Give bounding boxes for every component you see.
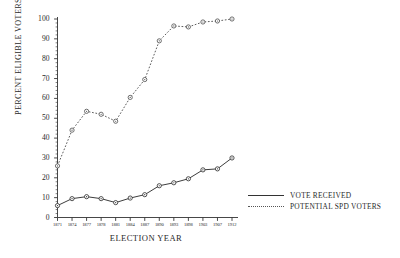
y-axis-tick-50: 50 [24,114,50,122]
x-axis-label: ELECTION YEAR [56,233,236,243]
legend-line-dotted-icon [248,203,284,210]
chart-container: PERCENT ELIGIBLE VOTERS ELECTION YEAR 01… [0,0,400,258]
x-axis-tick-1912: 1912 [220,223,244,228]
chart-plot-area [0,0,400,258]
legend-label-potential-spd-voters: POTENTIAL SPD VOTERS [290,202,381,211]
y-axis-tick-0: 0 [24,214,50,222]
y-axis-tick-100: 100 [24,15,50,23]
y-axis-tick-30: 30 [24,154,50,162]
y-axis-tick-70: 70 [24,75,50,83]
chart-legend: VOTE RECEIVED POTENTIAL SPD VOTERS [248,190,381,212]
y-axis-tick-80: 80 [24,55,50,63]
y-axis-tick-10: 10 [24,194,50,202]
y-axis-label: PERCENT ELIGIBLE VOTERS [14,0,23,137]
chart-series [55,17,234,208]
y-axis-tick-20: 20 [24,174,50,182]
y-axis-tick-60: 60 [24,94,50,102]
chart-axes [54,17,238,221]
legend-line-solid-icon [248,192,284,199]
y-axis-tick-90: 90 [24,35,50,43]
legend-item-vote-received: VOTE RECEIVED [248,190,381,201]
y-axis-tick-40: 40 [24,134,50,142]
legend-item-potential-spd-voters: POTENTIAL SPD VOTERS [248,201,381,212]
legend-label-vote-received: VOTE RECEIVED [290,191,351,200]
